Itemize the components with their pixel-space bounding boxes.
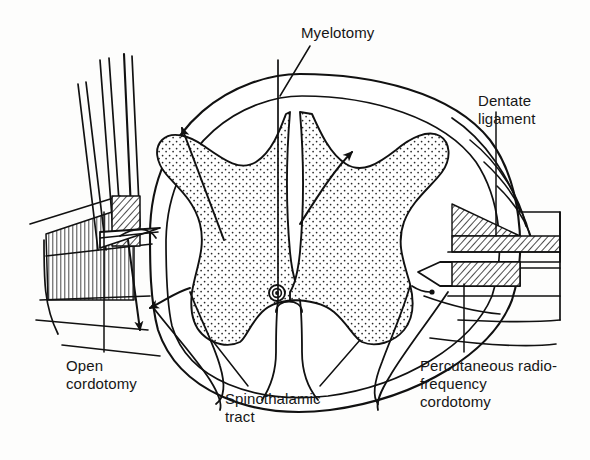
label-dentate-ligament: Dentate ligament: [478, 92, 536, 128]
central-canal: [269, 285, 285, 301]
rf-electrode: [418, 262, 520, 286]
label-spinothalamic-tract: Spinothalamic tract: [225, 390, 321, 426]
label-open-cordotomy: Open cordotomy: [66, 357, 137, 393]
label-myelotomy: Myelotomy: [301, 24, 374, 42]
rf-electrode-tip-dot: [429, 289, 434, 294]
label-percutaneous-rf-cordotomy: Percutaneous radio- frequency cordotomy: [420, 357, 557, 411]
figure-container: Myelotomy Dentate ligament Open cordotom…: [0, 0, 590, 460]
